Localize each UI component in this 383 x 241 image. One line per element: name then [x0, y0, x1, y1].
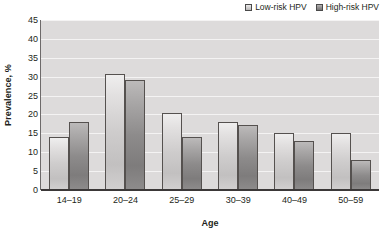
y-axis-tick-label: 0	[33, 186, 38, 195]
legend-label-high-risk: High-risk HPV	[326, 3, 379, 12]
y-axis-tick-labels: 051015202530354045	[16, 20, 38, 190]
x-axis-line	[41, 189, 379, 191]
x-axis-tick-label: 14–19	[41, 196, 97, 205]
x-axis-tick-label: 25–29	[154, 196, 210, 205]
y-axis-title-text: Prevalence, %	[3, 64, 13, 126]
x-axis-tick-labels: 14–1920–2425–2930–3940–4950–59	[41, 196, 379, 205]
x-axis-tick-label: 20–24	[97, 196, 153, 205]
y-axis-tick-label: 5	[33, 167, 38, 176]
bar-group	[41, 20, 97, 190]
bar-low-risk[interactable]	[105, 74, 125, 190]
y-axis-tick-label: 40	[28, 34, 38, 43]
bar-high-risk[interactable]	[238, 125, 258, 190]
bar-low-risk[interactable]	[218, 122, 238, 190]
bar-high-risk[interactable]	[351, 160, 371, 190]
y-axis-tick-label: 10	[28, 148, 38, 157]
y-axis-tick-label: 35	[28, 53, 38, 62]
bar-group	[210, 20, 266, 190]
legend-entry-low-risk: Low-risk HPV	[245, 3, 306, 12]
plot-area	[41, 20, 379, 190]
bar-group	[266, 20, 322, 190]
x-axis-tick-label: 50–59	[323, 196, 379, 205]
bar-low-risk[interactable]	[331, 133, 351, 190]
bar-groups	[41, 20, 379, 190]
legend-swatch-high-risk-icon	[316, 4, 323, 11]
y-axis-tick-label: 25	[28, 91, 38, 100]
bar-low-risk[interactable]	[162, 113, 182, 190]
y-axis-title: Prevalence, %	[1, 0, 15, 190]
x-axis-tick-label: 30–39	[210, 196, 266, 205]
bar-low-risk[interactable]	[49, 137, 69, 190]
chart-legend: Low-risk HPV High-risk HPV	[245, 3, 379, 12]
y-axis-line	[40, 20, 41, 190]
y-axis-tick-label: 45	[28, 16, 38, 25]
y-axis-tick-label: 30	[28, 72, 38, 81]
y-axis-tick-label: 20	[28, 110, 38, 119]
x-axis-tick-label: 40–49	[266, 196, 322, 205]
chart-figure: Low-risk HPV High-risk HPV Prevalence, %…	[0, 0, 383, 241]
bar-group	[154, 20, 210, 190]
legend-swatch-low-risk-icon	[245, 4, 252, 11]
bar-high-risk[interactable]	[182, 137, 202, 190]
y-axis-tick-label: 15	[28, 129, 38, 138]
bar-group	[97, 20, 153, 190]
legend-label-low-risk: Low-risk HPV	[255, 3, 306, 12]
bar-group	[323, 20, 379, 190]
bar-low-risk[interactable]	[274, 133, 294, 190]
bar-high-risk[interactable]	[69, 122, 89, 190]
bar-high-risk[interactable]	[125, 80, 145, 190]
bar-high-risk[interactable]	[294, 141, 314, 190]
legend-entry-high-risk: High-risk HPV	[316, 3, 379, 12]
x-axis-title: Age	[40, 218, 380, 228]
